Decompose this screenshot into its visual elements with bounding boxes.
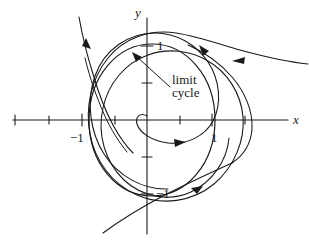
- limit-cycle-figure: x y −1 1 1 −1 limit cycle: [0, 0, 309, 243]
- x-tick-label-one: 1: [211, 131, 218, 144]
- arrowhead-limit-cycle: [199, 45, 209, 56]
- x-axis-label: x: [293, 113, 299, 126]
- limit-cycle-annotation-line2: cycle: [172, 86, 199, 99]
- upper-left-trajectory: [79, 17, 133, 153]
- phase-portrait-svg: [0, 0, 309, 243]
- y-tick-label-minus-one: −1: [156, 187, 170, 200]
- y-axis-label: y: [135, 6, 141, 19]
- limit-cycle-leader: [132, 52, 170, 87]
- y-tick-label-one: 1: [157, 39, 164, 52]
- x-tick-label-minus-one: −1: [70, 131, 84, 144]
- arrowhead-inner-spiral: [174, 139, 186, 147]
- limit-cycle-annotation: limit cycle: [172, 73, 199, 99]
- arrowhead-upper-right: [232, 57, 245, 64]
- outer-spiral-trajectory: [88, 32, 308, 201]
